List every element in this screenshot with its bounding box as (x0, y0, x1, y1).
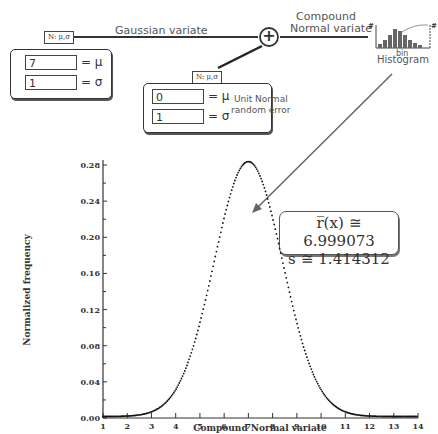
x-tick-label: 2 (124, 421, 130, 431)
y-tick-label: 0.28 (81, 160, 101, 170)
x-tick-label: 11 (340, 421, 351, 431)
x-axis-title: Compound Normal variate (193, 423, 327, 433)
data-points (102, 161, 418, 418)
y-tick-label: 0.16 (81, 268, 101, 278)
y-tick-label: 0.04 (81, 377, 101, 387)
frequency-chart: 0.000.040.080.120.160.200.240.28 1234567… (0, 0, 438, 434)
x-tick-label: 14 (412, 421, 424, 431)
y-tick-label: 0.24 (81, 196, 101, 206)
x-tick-label: 3 (149, 421, 155, 431)
x-tick-label: 1 (100, 421, 106, 431)
x-tick-label: 12 (364, 421, 375, 431)
y-tick-label: 0.00 (81, 413, 101, 423)
y-tick-label: 0.12 (81, 305, 100, 315)
x-tick-label: 13 (388, 421, 400, 431)
y-tick-label: 0.08 (81, 341, 101, 351)
x-tick-label: 4 (173, 421, 179, 431)
y-tick-label: 0.20 (81, 232, 101, 242)
y-axis: 0.000.040.080.120.160.200.240.28 (81, 160, 107, 423)
y-axis-title: Normalized frequency (22, 233, 32, 345)
